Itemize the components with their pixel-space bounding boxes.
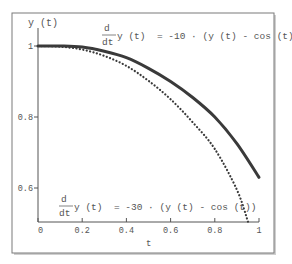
x-tick-label: 0.2 [75, 226, 90, 236]
x-tick-label: 1 [256, 226, 261, 236]
y-tick-label: 0.8 [18, 113, 33, 123]
chart-frame [12, 13, 274, 253]
chart: 00.20.40.60.81 10.80.6 y (t) t d dt y (t… [0, 0, 292, 264]
y-tick-label: 0.6 [18, 184, 33, 194]
x-tick-label: 0.6 [163, 226, 178, 236]
eq-bottom-numerator: d [61, 194, 67, 205]
x-tick-label: 0 [38, 226, 43, 236]
eq-top-denominator: dt [102, 37, 113, 48]
eq-bottom-text: y (t) = -30 · (y (t) - cos (t)) [74, 202, 256, 213]
x-tick-label: 0.8 [207, 226, 222, 236]
eq-top-text: y (t) = -10 · (y (t) - cos (t)) [117, 31, 292, 42]
y-axis-label: y (t) [28, 18, 58, 29]
x-axis-label: t [146, 239, 151, 249]
x-tick-label: 0.4 [119, 226, 134, 236]
eq-bottom-denominator: dt [59, 208, 70, 219]
y-tick-label: 1 [28, 42, 33, 52]
eq-top-numerator: d [104, 23, 110, 34]
